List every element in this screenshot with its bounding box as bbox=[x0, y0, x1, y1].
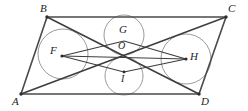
vertex-dot-B bbox=[45, 15, 48, 18]
point-label-F: F bbox=[50, 45, 57, 56]
point-label-I: I bbox=[121, 74, 124, 84]
point-label-C: C bbox=[228, 3, 235, 14]
side-AB bbox=[21, 17, 47, 94]
figure-canvas bbox=[0, 0, 248, 111]
point-label-D: D bbox=[201, 96, 209, 107]
geometry-figure: A B C D F G H I O bbox=[0, 0, 248, 111]
vertex-dot-A bbox=[19, 92, 22, 95]
vertex-dot-F bbox=[60, 54, 63, 57]
point-label-B: B bbox=[40, 3, 47, 14]
point-label-H: H bbox=[190, 51, 198, 62]
side-CD bbox=[199, 17, 226, 94]
point-label-O: O bbox=[118, 41, 125, 51]
vertex-dot-C bbox=[224, 15, 227, 18]
rhombus-FG bbox=[62, 41, 124, 56]
vertex-dot-H bbox=[184, 57, 187, 60]
point-label-G: G bbox=[119, 24, 127, 35]
point-label-A: A bbox=[12, 96, 19, 107]
